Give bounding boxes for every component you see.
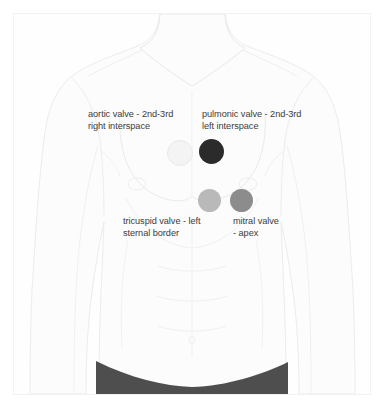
torso-illustration <box>0 0 385 408</box>
pulmonic-valve-label: pulmonic valve - 2nd-3rd left interspace <box>202 108 301 133</box>
tricuspid-valve-marker[interactable] <box>198 189 221 212</box>
tricuspid-valve-label: tricuspid valve - left sternal border <box>123 215 201 240</box>
aortic-valve-marker[interactable] <box>167 140 193 166</box>
mitral-valve-label: mitral valve - apex <box>233 215 279 240</box>
pulmonic-valve-marker[interactable] <box>199 139 224 164</box>
auscultation-diagram: aortic valve - 2nd-3rd right interspace … <box>0 0 385 408</box>
aortic-valve-label: aortic valve - 2nd-3rd right interspace <box>88 108 173 133</box>
mitral-valve-marker[interactable] <box>230 189 253 212</box>
